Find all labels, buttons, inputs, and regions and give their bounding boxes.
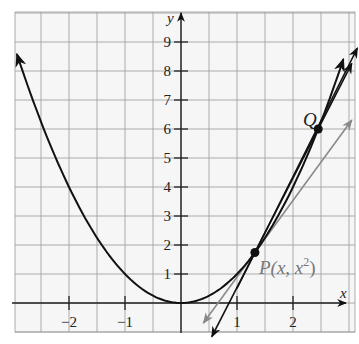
svg-text:−2: −2 [61, 314, 77, 330]
svg-text:5: 5 [164, 150, 172, 166]
x-axis-label: x [339, 285, 347, 301]
svg-text:1: 1 [233, 314, 241, 330]
svg-text:9: 9 [164, 34, 172, 50]
svg-text:3: 3 [164, 208, 172, 224]
y-axis-label: y [165, 10, 174, 26]
plot-background [15, 12, 355, 332]
svg-text:2: 2 [289, 314, 297, 330]
svg-text:7: 7 [164, 92, 172, 108]
point-p [250, 248, 259, 257]
svg-text:−1: −1 [117, 314, 133, 330]
point-q-label: Q [303, 109, 317, 130]
svg-text:2: 2 [164, 237, 172, 253]
chart-canvas: −2−112123456789 x y Q P(x, x2) [0, 0, 359, 344]
svg-text:1: 1 [164, 266, 172, 282]
point-p-label-main: P(x, x [258, 257, 304, 279]
svg-text:6: 6 [164, 121, 172, 137]
svg-text:4: 4 [164, 179, 172, 195]
point-p-label-close: ) [309, 257, 315, 279]
svg-text:8: 8 [164, 63, 172, 79]
